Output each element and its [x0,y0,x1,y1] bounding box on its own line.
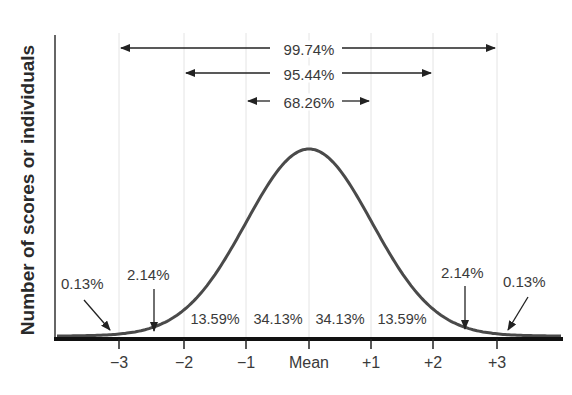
tail-label-left-inner: 2.14% [127,267,170,282]
span-label-68: 68.26% [281,94,338,111]
tick-label-mean: Mean [289,354,329,372]
span-label-95: 95.44% [281,66,338,83]
tail-label-right-outer: 0.13% [503,274,546,289]
tick-label-plus2: +2 [424,354,442,372]
region-label-minus2-minus1: 13.59% [190,311,239,327]
tick-label-plus3: +3 [488,354,506,372]
tail-label-right-inner: 2.14% [441,265,484,280]
tail-arrows [84,286,528,331]
tick-label-minus3: −3 [110,354,128,372]
tick-label-minus1: −1 [237,354,255,372]
tick-label-minus2: −2 [175,354,193,372]
region-label-minus1-mean: 34.13% [253,311,302,327]
region-label-plus1-plus2: 13.59% [377,311,426,327]
tick-label-plus1: +1 [362,354,380,372]
span-label-99: 99.74% [281,41,338,58]
normal-distribution-chart [0,0,572,395]
region-label-mean-plus1: 34.13% [315,311,364,327]
y-axis-label: Number of scores or individuals [17,45,39,335]
tail-label-left-outer: 0.13% [61,276,104,291]
